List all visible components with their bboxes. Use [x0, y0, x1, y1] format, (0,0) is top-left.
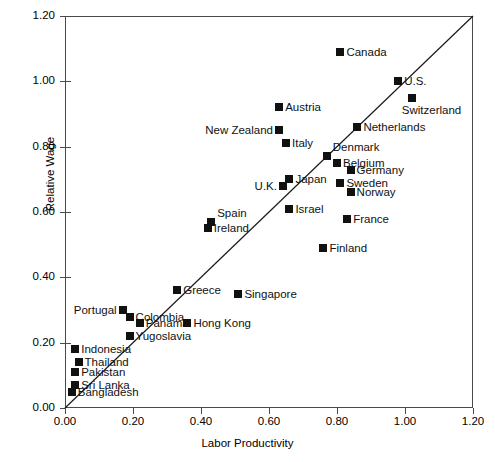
- y-tick-mark-inner: [65, 212, 71, 213]
- data-point-marker: [319, 244, 327, 252]
- data-point-marker: [394, 77, 402, 85]
- data-point-marker: [333, 159, 341, 167]
- x-tick-label: 0.20: [103, 415, 163, 428]
- y-tick-mark-inner: [65, 81, 71, 82]
- x-tick-mark: [405, 408, 406, 414]
- data-point-label: Netherlands: [363, 121, 425, 133]
- data-point-marker: [126, 332, 134, 340]
- data-point-marker: [71, 368, 79, 376]
- x-tick-mark: [65, 408, 66, 414]
- scatter-chart: 0.000.200.400.600.801.001.20 0.000.200.4…: [0, 0, 495, 462]
- x-tick-label: 1.00: [375, 415, 435, 428]
- y-tick-label: 0.20: [0, 337, 55, 349]
- data-point-label: New Zealand: [205, 124, 273, 136]
- data-point-marker: [136, 319, 144, 327]
- data-point-marker: [323, 152, 331, 160]
- data-point-marker: [68, 388, 76, 396]
- y-tick-label: 0.00: [0, 402, 55, 414]
- data-point-label: Greece: [183, 284, 221, 296]
- y-tick-label: 0.40: [0, 271, 55, 283]
- x-tick-mark: [337, 408, 338, 414]
- data-point-marker: [285, 205, 293, 213]
- data-point-label: Spain: [217, 207, 246, 219]
- data-point-label: Portugal: [74, 304, 117, 316]
- y-tick-mark-inner: [65, 277, 71, 278]
- data-point-label: Italy: [292, 137, 313, 149]
- data-point-label: Singapore: [244, 288, 296, 300]
- data-point-label: Bangladesh: [78, 386, 139, 398]
- data-point-label: Pakistan: [81, 366, 125, 378]
- y-tick-mark-inner: [65, 343, 71, 344]
- data-point-label: Israel: [295, 203, 323, 215]
- data-point-marker: [126, 313, 134, 321]
- data-point-marker: [282, 139, 290, 147]
- x-tick-label: 0.60: [239, 415, 299, 428]
- data-point-label: Japan: [295, 173, 326, 185]
- data-point-label: Denmark: [333, 141, 380, 153]
- data-point-marker: [234, 290, 242, 298]
- data-point-marker: [353, 123, 361, 131]
- data-point-label: Germany: [357, 164, 404, 176]
- data-point-label: U.K.: [255, 180, 277, 192]
- y-tick-mark: [60, 16, 66, 17]
- x-tick-mark: [269, 408, 270, 414]
- data-point-label: U.S.: [404, 75, 426, 87]
- data-point-marker: [336, 179, 344, 187]
- data-point-label: Panama: [146, 317, 189, 329]
- data-point-label: France: [353, 213, 389, 225]
- x-tick-label: 0.00: [35, 415, 95, 428]
- data-point-label: Ireland: [214, 222, 249, 234]
- y-axis-title: Relative Wage: [44, 114, 56, 234]
- data-point-label: Canada: [346, 46, 386, 58]
- data-point-marker: [183, 319, 191, 327]
- data-point-label: Hong Kong: [193, 317, 251, 329]
- data-point-label: Indonesia: [81, 343, 131, 355]
- data-point-label: Austria: [285, 101, 321, 113]
- data-point-label: Switzerland: [402, 104, 461, 116]
- x-tick-mark: [133, 408, 134, 414]
- data-point-marker: [408, 94, 416, 102]
- x-tick-label: 0.40: [171, 415, 231, 428]
- data-point-label: Yugoslavia: [136, 330, 192, 342]
- data-point-marker: [71, 345, 79, 353]
- data-point-marker: [336, 48, 344, 56]
- y-tick-label: 1.20: [0, 10, 55, 22]
- data-point-marker: [275, 103, 283, 111]
- data-point-label: Finland: [329, 242, 367, 254]
- data-point-marker: [279, 182, 287, 190]
- x-tick-label: 1.20: [443, 415, 495, 428]
- data-point-marker: [347, 188, 355, 196]
- x-tick-mark: [201, 408, 202, 414]
- x-tick-label: 0.80: [307, 415, 367, 428]
- data-point-marker: [173, 286, 181, 294]
- y-tick-label: 1.00: [0, 75, 55, 87]
- x-axis-title: Labor Productivity: [0, 437, 495, 449]
- data-point-marker: [275, 126, 283, 134]
- data-point-label: Norway: [357, 186, 396, 198]
- data-point-marker: [347, 166, 355, 174]
- data-point-marker: [343, 215, 351, 223]
- data-point-marker: [75, 358, 83, 366]
- y-tick-mark-inner: [65, 147, 71, 148]
- data-point-marker: [204, 224, 212, 232]
- x-tick-mark: [473, 408, 474, 414]
